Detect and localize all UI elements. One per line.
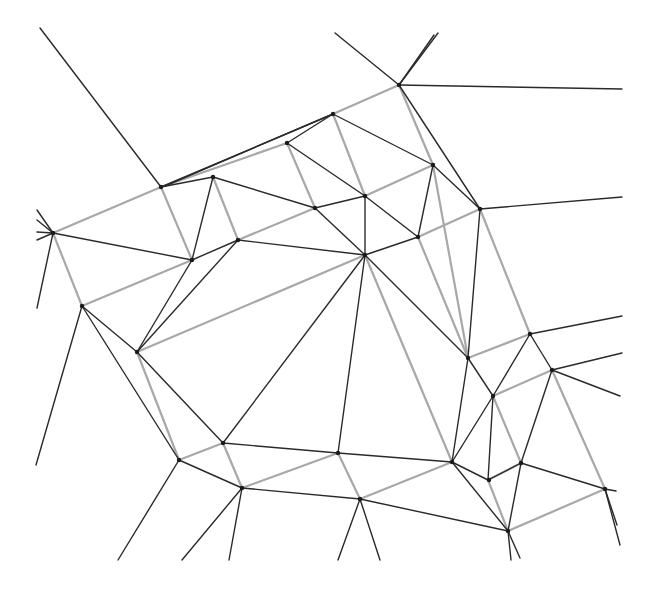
delaunay-edge: [161, 187, 192, 260]
delaunay-edge: [365, 165, 433, 196]
voronoi-edge: [223, 443, 338, 453]
vertex-dot: [190, 258, 194, 262]
voronoi-edge: [315, 196, 365, 208]
delaunay-edge: [137, 352, 179, 460]
vertex-dot: [285, 141, 289, 145]
voronoi-edge: [213, 177, 315, 208]
voronoi-edge: [36, 306, 82, 465]
delaunay-edge: [360, 462, 452, 499]
voronoi-edge: [287, 114, 333, 143]
delaunay-edge: [53, 187, 161, 233]
voronoi-edge: [165, 114, 333, 186]
delaunay-edge: [493, 370, 552, 396]
voronoi-edge: [452, 462, 488, 480]
vertex-dot: [358, 497, 362, 501]
vertex-dot: [331, 112, 335, 116]
delaunay-edge: [480, 209, 530, 334]
voronoi-edge: [242, 488, 360, 499]
vertex-dot: [550, 368, 554, 372]
delaunay-edge: [179, 443, 223, 460]
vertex-dot: [211, 175, 215, 179]
vertex-dot: [431, 163, 435, 167]
delaunay-edge: [333, 85, 399, 114]
vertex-dot: [240, 486, 244, 490]
vertex-dot: [236, 238, 240, 242]
vertex-dot: [487, 478, 491, 482]
delaunay-edge: [418, 209, 480, 237]
voronoi-edge: [521, 370, 552, 463]
vertex-dot: [519, 461, 523, 465]
vertex-dot: [177, 458, 181, 462]
delaunay-edge: [338, 453, 360, 499]
vertex-dot: [80, 304, 84, 308]
voronoi-edge: [53, 233, 192, 260]
voronoi-edge: [521, 463, 605, 489]
voronoi-edge: [137, 352, 223, 443]
vertex-dot: [135, 350, 139, 354]
voronoi-edge: [452, 396, 493, 462]
delaunay-edge: [53, 233, 82, 306]
voronoi-edge: [399, 85, 622, 89]
voronoi-edge: [333, 114, 433, 165]
voronoi-edge: [37, 233, 53, 308]
vertex-dot: [336, 451, 340, 455]
vertex-dot: [363, 194, 367, 198]
voronoi-edge: [399, 85, 480, 209]
voronoi-edge: [418, 165, 433, 237]
vertex-dot: [506, 529, 510, 533]
voronoi-edge: [488, 463, 521, 480]
vertex-dot: [397, 83, 401, 87]
voronoi-edge: [530, 334, 552, 370]
voronoi-edge: [335, 33, 399, 85]
voronoi-edge: [37, 232, 53, 233]
delaunay-edge: [399, 85, 433, 165]
voronoi-edge: [530, 316, 622, 334]
voronoi-edge: [468, 209, 480, 358]
voronoi-edge: [360, 499, 380, 560]
voronoi-edge: [399, 33, 438, 85]
voronoi-edge: [82, 306, 137, 352]
delaunay-edge: [213, 177, 238, 240]
vertex-dot: [416, 235, 420, 239]
voronoi-edge: [365, 237, 418, 255]
vertex-dot: [51, 231, 55, 235]
voronoi-edge: [552, 353, 622, 370]
vertex-dot: [491, 394, 495, 398]
voronoi-edge: [480, 197, 622, 209]
voronoi-edge: [182, 488, 242, 560]
voronoi-edge: [229, 488, 242, 560]
voronoi-edge: [137, 260, 192, 352]
voronoi-edge: [338, 453, 452, 462]
vertex-dot: [363, 253, 367, 257]
delaunay-edge: [493, 396, 521, 463]
delaunay-edge: [508, 489, 605, 531]
voronoi-edges: [36, 28, 622, 560]
voronoi-edge: [238, 240, 365, 255]
delaunay-edge: [238, 208, 315, 240]
voronoi-edge: [137, 240, 238, 352]
voronoi-edge: [365, 196, 418, 237]
voronoi-edge: [452, 358, 468, 462]
delaunay-edge: [242, 453, 338, 488]
delaunay-edge: [468, 334, 530, 358]
vertex-dot: [159, 185, 163, 189]
vertex-dot: [450, 460, 454, 464]
vertex-dot: [478, 207, 482, 211]
voronoi-edge: [82, 306, 179, 460]
delaunay-edge: [82, 260, 192, 306]
voronoi-edge: [605, 489, 620, 545]
vertex-dot: [221, 441, 225, 445]
voronoi-edge: [118, 460, 179, 560]
voronoi-edge: [468, 358, 493, 396]
delaunay-edge: [418, 237, 468, 358]
vertex-dot: [603, 487, 607, 491]
voronoi-edge: [37, 233, 53, 240]
voronoi-edge: [488, 396, 493, 480]
voronoi-delaunay-diagram: [0, 0, 650, 590]
delaunay-edge: [333, 114, 365, 196]
voronoi-edge: [192, 240, 238, 260]
vertices: [51, 83, 607, 533]
vertex-dot: [313, 206, 317, 210]
voronoi-edge: [40, 28, 161, 187]
vertex-dot: [528, 332, 532, 336]
